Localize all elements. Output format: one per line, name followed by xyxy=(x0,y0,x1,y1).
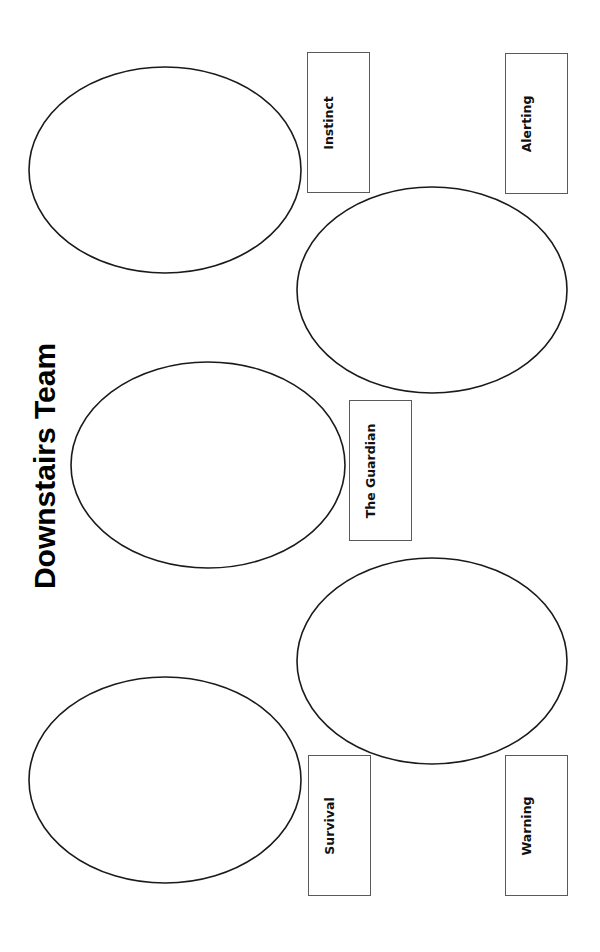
answer-ellipse-2[interactable] xyxy=(297,187,567,393)
label-box-survival: Survival xyxy=(308,755,371,896)
worksheet-page: Downstairs Team Instinct Alerting The Gu… xyxy=(0,0,600,952)
label-warning: Warning xyxy=(519,796,534,855)
answer-ellipse-4[interactable] xyxy=(297,558,567,764)
answer-ellipse-3[interactable] xyxy=(71,362,345,568)
answer-ellipse-5[interactable] xyxy=(29,677,301,883)
label-alerting: Alerting xyxy=(519,95,534,152)
label-box-the-guardian: The Guardian xyxy=(349,400,412,541)
answer-ellipse-1[interactable] xyxy=(29,67,301,273)
label-instinct: Instinct xyxy=(321,96,336,150)
label-the-guardian: The Guardian xyxy=(363,423,378,518)
label-box-alerting: Alerting xyxy=(505,53,568,194)
page-title: Downstairs Team xyxy=(28,343,62,589)
label-box-instinct: Instinct xyxy=(307,52,370,193)
label-box-warning: Warning xyxy=(505,755,568,896)
label-survival: Survival xyxy=(322,797,337,854)
